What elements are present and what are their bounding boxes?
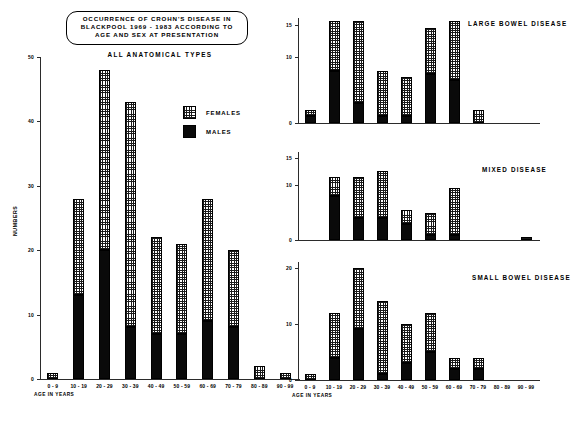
bar-segment-females [425, 28, 436, 74]
bar-segment-males [99, 250, 110, 379]
x-axis-tick-label: 20 - 29 [350, 384, 367, 390]
bar-segment-males [401, 224, 412, 241]
bar-segment-females [125, 102, 136, 327]
y-axis-tick-label: 20 [18, 247, 34, 253]
bar-large-bowel-disease-7 [473, 110, 484, 123]
bar-segment-males [377, 218, 388, 240]
x-axis-line [298, 380, 540, 381]
x-axis-caption: AGE IN YEARS [292, 393, 332, 398]
y-axis-tick-label: 50 [18, 54, 34, 60]
bar-segment-males [202, 321, 213, 379]
bar-segment-males [151, 334, 162, 379]
bar-segment-females [521, 237, 532, 240]
y-axis-caption: NUMBERS [12, 206, 18, 236]
x-axis-tick-label: 40 - 49 [398, 384, 415, 390]
x-axis-tick-label: 10 - 19 [70, 383, 87, 389]
bar-large-bowel-disease-4 [401, 77, 412, 123]
bar-small-bowel-disease-2 [353, 268, 364, 380]
bar-segment-females [377, 171, 388, 218]
bar-segment-females [377, 71, 388, 117]
bar-segment-males [228, 327, 239, 379]
bar-large-bowel-disease-3 [377, 71, 388, 124]
bar-mixed-disease-5 [425, 213, 436, 241]
title-line-1: OCCURRENCE OF CROHN'S DISEASE IN [73, 15, 241, 23]
y-axis-tick-label: 20 [276, 265, 292, 271]
bar-segment-females [449, 188, 460, 235]
y-axis-line [298, 152, 299, 240]
bar-large-bowel-disease-2 [353, 21, 364, 123]
x-axis-tick-label: 40 - 49 [148, 383, 165, 389]
y-axis-tick [295, 240, 298, 241]
bar-segment-females [353, 177, 364, 218]
y-axis-tick-label: 0 [18, 376, 34, 382]
bar-segment-females [401, 324, 412, 363]
x-axis-tick-label: 30 - 39 [374, 384, 391, 390]
bar-all-anatomical-types-1 [73, 199, 84, 379]
bar-all-anatomical-types-7 [228, 250, 239, 379]
bar-mixed-disease-4 [401, 210, 412, 240]
bar-segment-females [401, 77, 412, 116]
bar-small-bowel-disease-3 [377, 301, 388, 380]
x-axis-tick-label: 80 - 89 [251, 383, 268, 389]
bar-segment-females [254, 366, 265, 379]
figure-title-box: OCCURRENCE OF CROHN'S DISEASE IN BLACKPO… [66, 11, 248, 45]
bar-segment-males [329, 71, 340, 124]
bar-segment-males [425, 352, 436, 380]
bar-small-bowel-disease-1 [329, 313, 340, 380]
bar-segment-males [449, 369, 460, 380]
x-axis-caption: AGE IN YEARS [34, 392, 74, 397]
bar-segment-males [473, 369, 484, 380]
bar-segment-females [449, 21, 460, 80]
bar-segment-males [425, 235, 436, 241]
bar-segment-females [329, 313, 340, 358]
bar-all-anatomical-types-0 [47, 373, 58, 379]
bar-all-anatomical-types-5 [176, 244, 187, 379]
bar-segment-males [449, 235, 460, 241]
bar-small-bowel-disease-0 [305, 374, 316, 380]
y-axis-tick-label: 10 [18, 312, 34, 318]
bar-large-bowel-disease-5 [425, 28, 436, 123]
y-axis-tick-label: 40 [18, 118, 34, 124]
bar-mixed-disease-3 [377, 171, 388, 240]
x-axis-line [40, 379, 300, 380]
y-axis-line [298, 262, 299, 380]
bar-segment-males [425, 74, 436, 123]
bar-segment-females [305, 374, 316, 380]
y-axis-tick-label: 30 [18, 183, 34, 189]
x-axis-tick-label: 80 - 89 [494, 384, 511, 390]
bar-segment-females [228, 250, 239, 327]
bar-small-bowel-disease-4 [401, 324, 412, 380]
chart-panel-mixed-disease: 01015MIXED DISEASE [298, 152, 538, 247]
bar-segment-females [449, 358, 460, 369]
bar-segment-males [401, 363, 412, 380]
x-axis-tick-label: 0 - 9 [305, 384, 316, 390]
x-axis-tick-label: 90 - 99 [518, 384, 535, 390]
bar-segment-females [377, 301, 388, 374]
bar-segment-females [401, 210, 412, 224]
chart-panel-large-bowel-disease: 01015LARGE BOWEL DISEASE [298, 18, 538, 130]
bar-segment-females [73, 199, 84, 296]
y-axis-tick-label: 0 [276, 120, 292, 126]
panel-title-small-bowel-disease: SMALL BOWEL DISEASE [472, 274, 571, 281]
bar-segment-females [425, 213, 436, 235]
bar-small-bowel-disease-5 [425, 313, 436, 380]
y-axis-tick [37, 379, 40, 380]
bar-segment-females [202, 199, 213, 321]
bar-segment-females [329, 21, 340, 70]
bar-segment-males [305, 116, 316, 123]
chart-panel-small-bowel-disease: 010200 - 910 - 1920 - 2930 - 3940 - 4950… [298, 262, 538, 400]
x-axis-tick-label: 0 - 9 [48, 383, 59, 389]
bar-segment-females [353, 21, 364, 103]
y-axis-tick [295, 324, 298, 325]
y-axis-tick [295, 25, 298, 26]
y-axis-tick-label: 10 [276, 54, 292, 60]
panel-title-mixed-disease: MIXED DISEASE [482, 166, 547, 173]
bar-small-bowel-disease-7 [473, 358, 484, 380]
bar-segment-females [473, 110, 484, 123]
bar-segment-males [125, 327, 136, 379]
x-axis-tick-label: 20 - 29 [96, 383, 113, 389]
bar-large-bowel-disease-1 [329, 21, 340, 123]
x-axis-tick-label: 50 - 59 [174, 383, 191, 389]
y-axis-tick [37, 250, 40, 251]
x-axis-tick-label: 60 - 69 [199, 383, 216, 389]
